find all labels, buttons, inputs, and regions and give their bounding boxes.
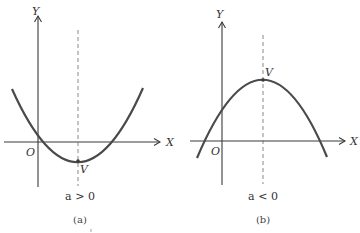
y-axis-label: Y (216, 8, 225, 21)
condition-label: a < 0 (248, 190, 278, 203)
x-axis-label: X (165, 136, 175, 149)
origin-label: O (26, 146, 35, 159)
condition-label: a > 0 (65, 190, 95, 203)
y-axis-label: Y (32, 5, 41, 18)
panel-b: X Y O V a < 0 (b) (190, 8, 359, 225)
parabola-figure: X Y O V a > 0 (a) X Y O V a < 0 (b) (0, 0, 360, 233)
vertex-label: V (265, 66, 274, 79)
panel-caption: (b) (256, 214, 270, 225)
origin-label: O (211, 145, 220, 158)
vertex-label: V (80, 163, 89, 176)
panel-a: X Y O V a > 0 (a) (4, 5, 175, 225)
x-axis-label: X (349, 135, 359, 148)
panel-caption: (a) (73, 214, 87, 225)
